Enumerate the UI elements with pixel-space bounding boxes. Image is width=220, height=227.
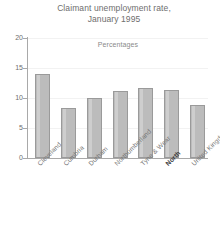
y-tick-label-text: 20	[1, 34, 23, 41]
y-tick-label-text: 15	[1, 64, 23, 71]
y-tick-label-text: 0	[1, 154, 23, 161]
y-tick-mark	[23, 98, 27, 99]
bar	[164, 90, 179, 158]
plot-area	[28, 38, 208, 158]
chart-title-line-1: Claimant unemployment rate,	[18, 3, 210, 14]
y-tick-label-text: 5	[1, 124, 23, 131]
bar	[138, 88, 153, 158]
chart-title-line-2: January 1995	[18, 14, 210, 25]
y-tick-mark	[23, 38, 27, 39]
y-tick-label: 10	[0, 94, 23, 101]
y-tick-mark	[23, 158, 27, 159]
bar	[35, 74, 50, 158]
y-tick-mark	[23, 68, 27, 69]
y-tick-label-text: 10	[1, 94, 23, 101]
y-tick-label: 5	[0, 124, 23, 131]
y-tick-label: 20	[0, 34, 23, 41]
y-tick-label: 0	[0, 154, 23, 161]
chart-container: Claimant unemployment rate, January 1995…	[0, 0, 220, 227]
x-axis-labels: ClevelandCumbriaDurhamNorthumberlandTyne…	[28, 160, 220, 226]
chart-title: Claimant unemployment rate, January 1995	[18, 3, 210, 25]
y-tick-label: 15	[0, 64, 23, 71]
y-tick-mark	[23, 128, 27, 129]
